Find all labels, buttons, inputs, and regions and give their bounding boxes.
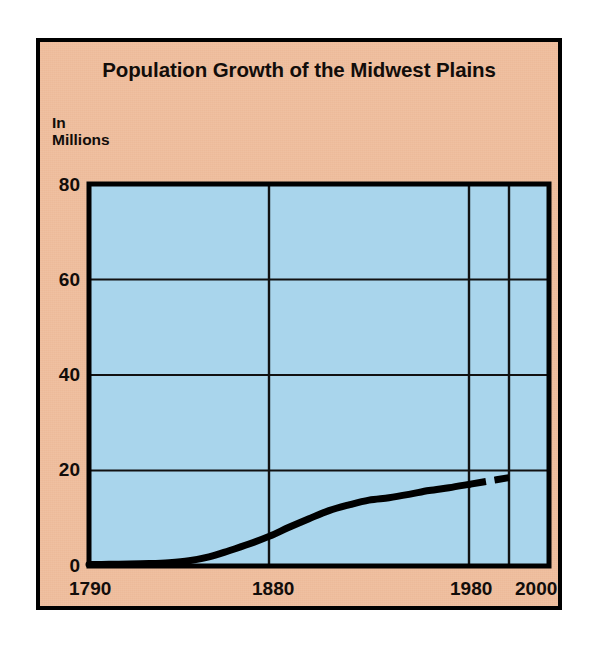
y-axis-title: In Millions: [52, 114, 110, 148]
y-axis-title-line-2: Millions: [52, 131, 110, 148]
y-tick-label-40: 40: [40, 364, 80, 386]
y-tick-label-0: 0: [40, 555, 80, 577]
chart-title: Population Growth of the Midwest Plains: [40, 58, 558, 82]
y-tick-label-60: 60: [40, 269, 80, 291]
x-tick-label-2000: 2000: [515, 578, 557, 600]
x-tick-label-1880: 1880: [252, 578, 294, 600]
chart-panel: Population Growth of the Midwest Plains …: [36, 38, 562, 610]
x-tick-label-1980: 1980: [450, 578, 492, 600]
x-tick-label-1790: 1790: [69, 578, 111, 600]
chart-svg: [89, 184, 549, 566]
y-tick-label-20: 20: [40, 459, 80, 481]
y-tick-label-80: 80: [40, 174, 80, 196]
y-axis-title-line-1: In: [52, 114, 110, 131]
plot-area: [89, 184, 549, 566]
